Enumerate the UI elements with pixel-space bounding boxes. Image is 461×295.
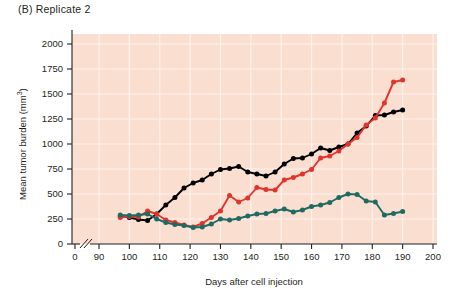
figure-panel: (B) Replicate 2 Mean tumor burden (mm3) …: [0, 0, 461, 295]
svg-text:1250: 1250: [42, 113, 63, 124]
svg-text:0: 0: [72, 251, 77, 262]
svg-text:200: 200: [425, 251, 441, 262]
svg-text:160: 160: [304, 251, 320, 262]
svg-text:170: 170: [334, 251, 350, 262]
svg-text:750: 750: [47, 163, 63, 174]
svg-text:180: 180: [364, 251, 380, 262]
svg-text:1500: 1500: [42, 88, 63, 99]
svg-text:500: 500: [47, 188, 63, 199]
svg-text:120: 120: [182, 251, 198, 262]
line-chart: 0250500750100012501500175020000901001101…: [0, 0, 461, 295]
svg-text:150: 150: [273, 251, 289, 262]
svg-text:90: 90: [94, 251, 105, 262]
svg-text:0: 0: [58, 238, 63, 249]
svg-text:110: 110: [152, 251, 167, 262]
svg-text:130: 130: [213, 251, 229, 262]
svg-text:250: 250: [47, 213, 63, 224]
svg-text:140: 140: [243, 251, 259, 262]
svg-text:1000: 1000: [42, 138, 63, 149]
svg-text:100: 100: [121, 251, 137, 262]
svg-text:2000: 2000: [42, 38, 63, 49]
svg-text:190: 190: [395, 251, 411, 262]
svg-text:1750: 1750: [42, 63, 63, 74]
